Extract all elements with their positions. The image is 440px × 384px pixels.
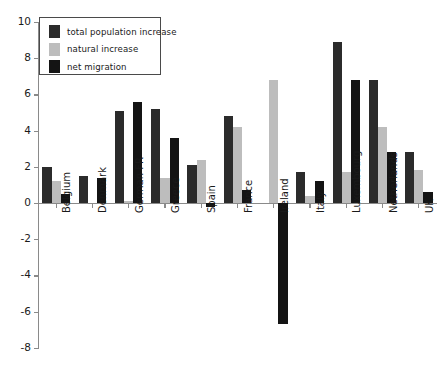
legend-item[interactable]: natural increase xyxy=(49,43,138,56)
bar xyxy=(333,42,342,203)
bar xyxy=(115,111,124,203)
y-axis-tick-label: -6 xyxy=(21,305,31,317)
y-axis-tick-label: 2 xyxy=(24,160,31,172)
y-axis-tick-label: -8 xyxy=(21,341,31,353)
bar-chart: 1086420-2-4-6-8 BelgiumDenmarkGerman FRG… xyxy=(0,0,440,384)
bar xyxy=(79,176,88,203)
x-axis-category-label: Denmark xyxy=(97,167,108,213)
bar xyxy=(233,127,242,203)
x-axis-category-label: Belgium xyxy=(61,172,72,213)
bar xyxy=(52,181,61,203)
bar xyxy=(378,127,387,203)
legend-swatch-icon xyxy=(49,25,60,38)
bar xyxy=(160,178,169,203)
x-axis-category-label: UK xyxy=(424,199,435,213)
bar xyxy=(269,80,278,203)
bar xyxy=(369,80,378,203)
bar xyxy=(224,116,233,203)
legend-swatch-icon xyxy=(49,60,60,73)
x-axis-category-label: Luxembourg xyxy=(351,151,362,213)
bar xyxy=(414,170,423,203)
bar xyxy=(405,152,414,203)
legend-item-label: net migration xyxy=(67,62,127,72)
legend-item[interactable]: total population increase xyxy=(49,25,177,38)
legend-item-label: natural increase xyxy=(67,44,138,54)
x-axis-category-label: German FR xyxy=(134,157,145,213)
x-axis-category-label: Greece xyxy=(170,177,181,213)
bar xyxy=(342,172,351,203)
y-axis-tick-label: 10 xyxy=(18,15,31,27)
bar xyxy=(124,201,133,203)
x-axis-category-label: Ireland xyxy=(279,178,290,213)
bar xyxy=(305,196,314,203)
legend-item[interactable]: net migration xyxy=(49,60,127,73)
legend-swatch-icon xyxy=(49,43,60,56)
y-axis-tick-label: -2 xyxy=(21,232,31,244)
y-axis-tick-label: 0 xyxy=(24,196,31,208)
bar xyxy=(197,160,206,203)
bar xyxy=(296,172,305,203)
y-axis-tick-label: 4 xyxy=(24,124,31,136)
y-axis-tick-label: 6 xyxy=(24,87,31,99)
x-axis-category-label: France xyxy=(243,180,254,213)
bar xyxy=(187,165,196,203)
x-axis-category-label: Italy xyxy=(315,191,326,213)
x-axis-category-label: Spain xyxy=(206,185,217,213)
x-axis-category-label: Netherlands xyxy=(388,152,399,213)
legend-item-label: total population increase xyxy=(67,27,177,37)
bar xyxy=(42,167,51,203)
chart-legend: total population increasenatural increas… xyxy=(39,17,161,75)
bar xyxy=(278,203,287,324)
y-axis-tick-label: -4 xyxy=(21,268,31,280)
bar xyxy=(151,109,160,203)
y-axis-tick-label: 8 xyxy=(24,51,31,63)
